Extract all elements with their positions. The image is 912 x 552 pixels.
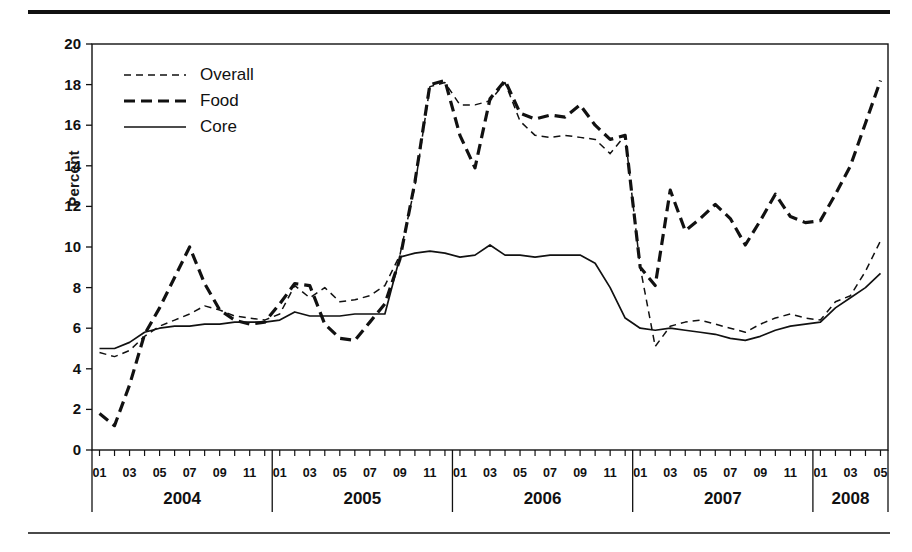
series-line-core xyxy=(100,245,881,349)
x-month-label: 05 xyxy=(153,466,167,480)
x-month-label: 09 xyxy=(393,466,407,480)
y-tick-label: 16 xyxy=(64,116,81,133)
x-month-label: 03 xyxy=(663,466,677,480)
y-tick-label: 14 xyxy=(64,157,81,174)
y-tick-label: 8 xyxy=(73,279,81,296)
y-tick-label: 12 xyxy=(64,197,81,214)
x-month-label: 07 xyxy=(543,466,557,480)
legend-label-food[interactable]: Food xyxy=(200,91,239,110)
axes-layer: 0246810121416182001030507091101030507091… xyxy=(64,35,888,512)
y-tick-label: 18 xyxy=(64,76,81,93)
plot-wrapper: 0246810121416182001030507091101030507091… xyxy=(0,0,912,552)
x-year-label: 2008 xyxy=(832,489,870,508)
legend-label-core[interactable]: Core xyxy=(200,117,237,136)
x-month-label: 05 xyxy=(693,466,707,480)
x-month-label: 07 xyxy=(183,466,197,480)
x-month-label: 03 xyxy=(303,466,317,480)
y-tick-label: 2 xyxy=(73,400,81,417)
x-month-label: 11 xyxy=(604,466,617,480)
x-month-label: 11 xyxy=(243,466,256,480)
y-tick-label: 20 xyxy=(64,35,81,52)
x-month-label: 03 xyxy=(483,466,497,480)
x-month-label: 07 xyxy=(723,466,737,480)
x-month-label: 11 xyxy=(784,466,797,480)
x-month-label: 09 xyxy=(213,466,227,480)
x-year-label: 2007 xyxy=(704,489,742,508)
inflation-line-chart: 0246810121416182001030507091101030507091… xyxy=(0,0,912,552)
x-month-label: 03 xyxy=(843,466,857,480)
y-tick-label: 4 xyxy=(73,360,82,377)
legend-layer: OverallFoodCore xyxy=(124,65,254,136)
x-month-label: 01 xyxy=(813,466,827,480)
x-year-label: 2004 xyxy=(163,489,201,508)
x-month-label: 05 xyxy=(333,466,347,480)
x-month-label: 05 xyxy=(874,466,888,480)
x-month-label: 07 xyxy=(363,466,377,480)
legend-label-overall[interactable]: Overall xyxy=(200,65,254,84)
x-month-label: 01 xyxy=(93,466,107,480)
x-month-label: 01 xyxy=(633,466,647,480)
x-month-label: 11 xyxy=(423,466,436,480)
x-year-label: 2005 xyxy=(343,489,381,508)
x-month-label: 03 xyxy=(123,466,137,480)
x-month-label: 09 xyxy=(573,466,587,480)
x-month-label: 05 xyxy=(513,466,527,480)
y-tick-label: 10 xyxy=(64,238,81,255)
figure-container: Percent 02468101214161820010305070911010… xyxy=(0,0,912,552)
x-month-label: 01 xyxy=(273,466,287,480)
y-tick-label: 0 xyxy=(73,441,81,458)
y-tick-label: 6 xyxy=(73,319,81,336)
x-year-label: 2006 xyxy=(524,489,562,508)
x-month-label: 09 xyxy=(753,466,767,480)
x-month-label: 01 xyxy=(453,466,467,480)
